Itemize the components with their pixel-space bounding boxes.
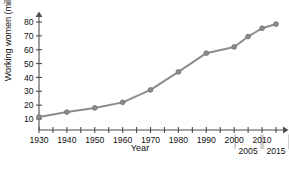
data-point [246,34,251,39]
data-point [204,51,209,56]
x-tick-label: 2000 [225,135,244,145]
y-tick-label: 10 [24,114,34,124]
y-axis-tick-labels: 1020304050607080 [24,17,34,124]
y-tick-label: 40 [24,73,34,83]
data-point [176,69,181,74]
plot-area: 1020304050607080 19301940195019601970198… [0,0,289,173]
data-point [37,115,42,120]
y-tick-label: 80 [24,17,34,27]
chart-figure: Working women (millions) Year 1020304050… [0,0,289,173]
data-point [274,22,279,27]
y-tick-label: 30 [24,86,34,96]
data-point [64,110,69,115]
data-point [260,26,265,31]
axis-lines [36,12,289,134]
x-tick-label-offset: 2015 [266,146,285,156]
x-tick-label: 1950 [85,135,104,145]
y-tick-label: 60 [24,45,34,55]
x-tick-label: 2010 [252,135,271,145]
y-tick-label: 20 [24,100,34,110]
data-line [39,24,276,117]
x-tick-label: 1990 [197,135,216,145]
x-tick-label: 1930 [29,135,48,145]
x-tick-label: 1970 [141,135,160,145]
x-tick-label: 1980 [169,135,188,145]
y-tick-label: 50 [24,59,34,69]
y-tick-label: 70 [24,31,34,41]
x-tick-label: 1960 [113,135,132,145]
data-markers [37,22,279,120]
data-point [148,88,153,93]
x-tick-label: 1940 [57,135,76,145]
x-axis-tick-labels-secondary: 20052015 [239,146,286,156]
x-tick-label-offset: 2005 [239,146,258,156]
data-point [92,106,97,111]
x-axis-tick-labels-primary: 193019401950196019701980199020002010 [29,135,271,145]
data-point [120,100,125,105]
data-point [232,45,237,50]
